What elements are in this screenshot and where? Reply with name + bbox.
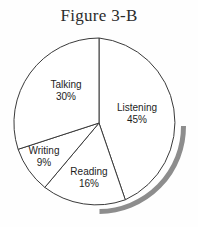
pie-label-talking-name: Talking [50, 79, 81, 90]
pie-chart [0, 0, 198, 227]
pie-label-reading: Reading 16% [70, 166, 107, 189]
pie-label-listening: Listening 45% [117, 102, 157, 125]
pie-label-talking-value: 30% [50, 90, 81, 102]
pie-label-reading-value: 16% [70, 177, 107, 189]
pie-label-writing-name: Writing [29, 145, 60, 156]
figure-container: Figure 3-B Listening 45% Reading 16% Wri… [0, 0, 198, 227]
pie-label-reading-name: Reading [70, 166, 107, 177]
pie-label-talking: Talking 30% [50, 79, 81, 102]
pie-label-listening-name: Listening [117, 102, 157, 113]
pie-label-writing-value: 9% [29, 156, 60, 168]
pie-label-writing: Writing 9% [29, 145, 60, 168]
pie-label-listening-value: 45% [117, 113, 157, 125]
